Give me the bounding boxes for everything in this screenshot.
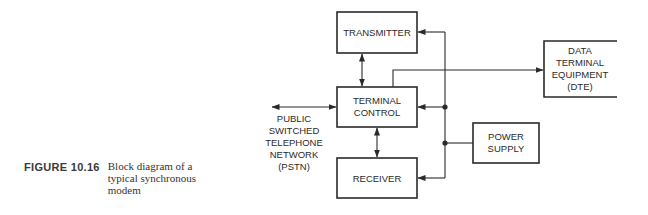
transmitter-block: TRANSMITTER [337, 12, 417, 53]
pstn-label-line3: TELEPHONE [265, 137, 323, 148]
terminal-control-block: TERMINAL CONTROL [337, 87, 417, 127]
receiver-block: RECEIVER [337, 158, 417, 198]
pstn-label-line1: PUBLIC [277, 113, 311, 124]
terminal-control-label-line2: CONTROL [354, 107, 400, 118]
pstn-label-line5: (PSTN) [278, 161, 310, 172]
dte-label-line2: TERMINAL [556, 57, 604, 68]
pstn-label-line4: NETWORK [270, 149, 319, 160]
caption-line: modem [108, 184, 223, 196]
figure-number: FIGURE 10.16 [24, 160, 100, 196]
pstn-label-line2: SWITCHED [269, 125, 320, 136]
caption-text: Block diagram of a typical synchronous m… [108, 160, 223, 196]
dte-label-line3: EQUIPMENT [552, 69, 609, 80]
caption-line: typical synchronous [108, 172, 223, 184]
junction-dot [442, 104, 447, 109]
power-supply-label-line2: SUPPLY [488, 143, 525, 154]
receiver-label: RECEIVER [353, 173, 402, 184]
terminal-dte-link [393, 70, 543, 87]
figure-caption: FIGURE 10.16 Block diagram of a typical … [24, 160, 223, 196]
power-supply-label-line1: POWER [488, 131, 524, 142]
pstn-label: PUBLIC SWITCHED TELEPHONE NETWORK (PSTN) [265, 113, 323, 172]
transmitter-label: TRANSMITTER [343, 27, 411, 38]
dte-label-line1: DATA [568, 45, 593, 56]
caption-line: Block diagram of a [108, 160, 223, 172]
junction-dot [442, 140, 447, 145]
dte-label-line4: (DTE) [567, 81, 592, 92]
terminal-control-label-line1: TERMINAL [353, 95, 401, 106]
power-supply-block: POWER SUPPLY [473, 123, 539, 163]
dte-block: DATA TERMINAL EQUIPMENT (DTE) [544, 41, 617, 97]
